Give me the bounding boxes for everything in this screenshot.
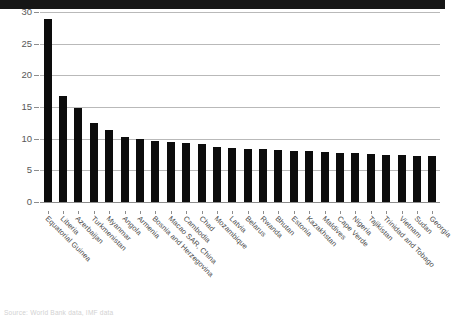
bar[interactable] bbox=[90, 123, 98, 202]
bar[interactable] bbox=[105, 130, 113, 202]
top-black-bar bbox=[0, 0, 445, 9]
bar[interactable] bbox=[182, 143, 190, 202]
bar[interactable] bbox=[398, 155, 406, 202]
x-tick-mark bbox=[402, 211, 403, 214]
bar-chart: 051015202530 Equatorial GuineaLiberiaAze… bbox=[0, 9, 445, 314]
bar[interactable] bbox=[413, 156, 421, 202]
y-tick-label: 15 bbox=[6, 101, 32, 112]
bar[interactable] bbox=[259, 149, 267, 202]
bar[interactable] bbox=[274, 150, 282, 202]
bar[interactable] bbox=[136, 139, 144, 202]
bar[interactable] bbox=[382, 155, 390, 203]
y-tick-mark bbox=[34, 44, 39, 45]
x-axis-labels: Equatorial GuineaLiberiaAzerbaijanTurkme… bbox=[40, 214, 445, 314]
y-tick-mark bbox=[34, 202, 39, 203]
bar[interactable] bbox=[351, 153, 359, 202]
y-tick-label: 10 bbox=[6, 133, 32, 144]
bar[interactable] bbox=[321, 152, 329, 202]
bar[interactable] bbox=[151, 141, 159, 202]
bar[interactable] bbox=[59, 96, 67, 202]
y-tick-label: 0 bbox=[6, 196, 32, 207]
x-tick-mark bbox=[125, 211, 126, 214]
x-tick-mark bbox=[202, 211, 203, 214]
bar[interactable] bbox=[367, 154, 375, 202]
y-tick-label: 20 bbox=[6, 69, 32, 80]
source-note: Source: World Bank data, IMF data bbox=[4, 309, 113, 316]
bar[interactable] bbox=[44, 19, 52, 202]
y-tick-label: 25 bbox=[6, 38, 32, 49]
bar[interactable] bbox=[305, 151, 313, 202]
y-tick-label: 5 bbox=[6, 164, 32, 175]
bar[interactable] bbox=[213, 147, 221, 202]
bar[interactable] bbox=[74, 108, 82, 202]
bar[interactable] bbox=[121, 137, 129, 202]
bar[interactable] bbox=[228, 148, 236, 202]
y-tick-mark bbox=[34, 139, 39, 140]
plot-area: 051015202530 bbox=[40, 12, 440, 211]
bar[interactable] bbox=[428, 156, 436, 202]
bar[interactable] bbox=[290, 151, 298, 202]
y-tick-mark bbox=[34, 170, 39, 171]
bars-group bbox=[40, 12, 440, 211]
y-tick-mark bbox=[34, 107, 39, 108]
y-tick-mark bbox=[34, 75, 39, 76]
bar[interactable] bbox=[244, 149, 252, 202]
x-tick-mark bbox=[325, 211, 326, 214]
bar[interactable] bbox=[167, 142, 175, 202]
y-tick-mark bbox=[34, 12, 39, 13]
y-tick-label: 30 bbox=[6, 6, 32, 17]
bar[interactable] bbox=[198, 144, 206, 202]
bar[interactable] bbox=[336, 153, 344, 202]
